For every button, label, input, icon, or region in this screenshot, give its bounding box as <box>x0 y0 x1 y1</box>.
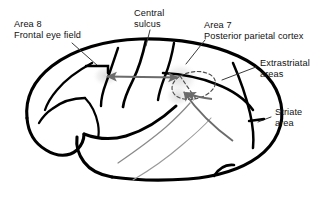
superior-frontal-sulcus-line <box>45 63 92 110</box>
label-area8-line2: Frontal eye field <box>14 30 81 41</box>
label-striate-area: Striate area <box>275 107 302 130</box>
central-sulcus-line <box>123 40 146 107</box>
label-central-sulcus: Central sulcus <box>134 8 164 31</box>
brain-diagram-figure: Area 7 --> Area 8 Frontal eye field <box>0 0 330 209</box>
label-area8-line1: Area 8 <box>14 19 81 30</box>
arrow-frontal-eye-field-to-parietal <box>107 77 178 78</box>
label-area7-line2: Posterior parietal cortex <box>204 31 304 42</box>
label-striate-line1: Striate <box>275 107 302 118</box>
label-extrastriatal-areas: Extrastriatal areas <box>260 58 310 81</box>
inferior-frontal-branch <box>85 98 99 138</box>
label-area7: Area 7 Posterior parietal cortex <box>204 20 304 43</box>
brain-outline-group <box>27 39 282 180</box>
frontal-orbital-outline <box>27 118 84 155</box>
label-central-sulcus-line2: sulcus <box>134 19 164 30</box>
label-area7-line1: Area 7 <box>204 20 304 31</box>
superior-temporal-sulcus-line <box>118 103 190 163</box>
cerebrum-outline <box>27 39 282 180</box>
label-area8: Area 8 Frontal eye field <box>14 19 81 42</box>
label-central-sulcus-line1: Central <box>134 8 164 19</box>
label-extrastriatal-line1: Extrastriatal <box>260 58 310 69</box>
sulci-group <box>39 40 253 180</box>
label-extrastriatal-line2: areas <box>260 69 310 80</box>
label-striate-line2: area <box>275 118 302 129</box>
